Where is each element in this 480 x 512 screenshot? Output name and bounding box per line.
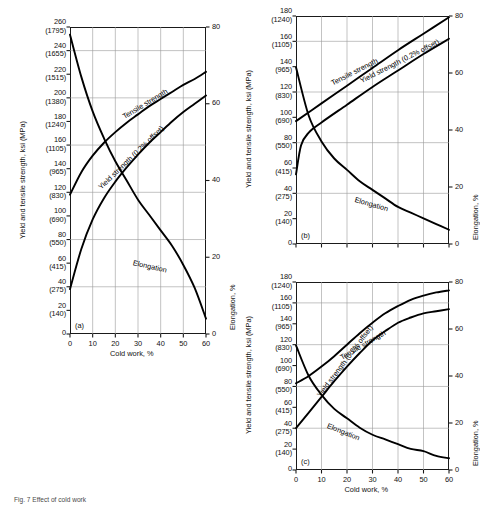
curve-label-elongation: Elongation: [132, 258, 168, 275]
tick-value-mpa: (1515): [45, 73, 66, 82]
tick-value-ksi: 100: [54, 206, 66, 215]
tick-value-mpa: (140): [49, 309, 66, 318]
tick-value-ksi: 40: [284, 184, 292, 193]
curve-label-elongation: Elongation: [326, 421, 361, 442]
x-axis-tick-label: 60: [194, 339, 218, 348]
tick-value-ksi: 60: [284, 158, 292, 167]
y-axis-tick-label-right: 40: [455, 372, 463, 380]
y-axis-tick-label-left: 20(140): [248, 441, 292, 458]
tick-value-ksi: 220: [54, 65, 66, 74]
y-axis-tick-label-left: 0: [248, 239, 292, 247]
tick-value-ksi: 80: [284, 377, 292, 386]
y-axis-tick-label-left: 180(1240): [22, 113, 66, 130]
curve-tensile: [296, 17, 449, 121]
y-axis-title-left: Yield and tensile strength, ksi (MPa): [18, 120, 27, 238]
tick-value-mpa: (1240): [271, 281, 292, 290]
tick-value-ksi: 20: [284, 440, 292, 449]
y-axis-title-right: Elongation, %: [228, 284, 237, 330]
curve-label-tensile: Tensile strength: [330, 56, 380, 87]
curve-yield: [296, 309, 449, 428]
x-axis-tick-label: 20: [335, 475, 359, 484]
y-axis-tick-label-right: 40: [212, 176, 220, 184]
y-axis-tick-label-left: 120(830): [248, 83, 292, 100]
y-axis-tick-label-left: 40(275): [248, 420, 292, 437]
y-axis-tick-label-left: 160(1105): [22, 136, 66, 153]
y-axis-tick-label-left: 0: [22, 329, 66, 337]
y-axis-tick-label-left: 0: [248, 465, 292, 473]
y-axis-tick-label-left: 60(415): [22, 255, 66, 272]
tick-value-ksi: 120: [280, 82, 292, 91]
plot-frame: [296, 282, 449, 470]
y-axis-tick-label-right: 60: [212, 99, 220, 107]
curve-tensile: [70, 72, 206, 195]
curve-elongation: [296, 345, 449, 458]
tick-value-ksi: 200: [54, 88, 66, 97]
y-axis-tick-label-left: 180(1240): [248, 7, 292, 24]
y-axis-tick-label-right: 40: [455, 126, 463, 134]
tick-value-mpa: (1240): [45, 120, 66, 129]
panel-label: (b): [301, 231, 310, 240]
tick-value-ksi: 140: [280, 57, 292, 66]
tick-value-ksi: 180: [280, 272, 292, 281]
panel-label: (c): [301, 457, 310, 466]
tick-value-ksi: 80: [58, 230, 66, 239]
y-axis-title-left: Yield and tensile strength, ksi (MPa): [244, 316, 253, 434]
tick-value-mpa: (275): [49, 285, 66, 294]
y-axis-tick-label-right: 80: [212, 23, 220, 31]
y-axis-tick-label-left: 120(830): [248, 336, 292, 353]
tick-value-ksi: 240: [54, 41, 66, 50]
tick-value-mpa: (830): [49, 191, 66, 200]
tick-value-mpa: (415): [275, 167, 292, 176]
x-axis-tick-label: 40: [386, 475, 410, 484]
x-axis-title: Cold work, %: [110, 349, 154, 358]
y-axis-tick-label-right: 80: [455, 278, 463, 286]
y-axis-tick-label-left: 100(690): [248, 109, 292, 126]
y-axis-tick-label-left: 140(965): [248, 315, 292, 332]
tick-value-ksi: 140: [54, 159, 66, 168]
tick-value-mpa: (690): [49, 215, 66, 224]
tick-value-mpa: (275): [275, 427, 292, 436]
curve-yield: [70, 95, 206, 289]
curve-elongation: [296, 67, 449, 229]
tick-value-mpa: (140): [275, 217, 292, 226]
curve-label-tensile: Tensile strength: [338, 328, 387, 361]
y-axis-tick-label-right: 0: [212, 330, 216, 338]
y-axis-tick-label-right: 20: [212, 253, 220, 261]
x-axis-tick-label: 0: [58, 339, 82, 348]
tick-value-ksi: 60: [58, 254, 66, 263]
tick-value-ksi: 80: [284, 133, 292, 142]
y-axis-tick-label-left: 100(690): [22, 207, 66, 224]
plot-frame: [296, 16, 449, 244]
y-axis-tick-label-left: 220(1515): [22, 66, 66, 83]
x-axis-tick-label: 40: [149, 339, 173, 348]
y-axis-tick-label-left: 60(415): [248, 159, 292, 176]
tick-value-mpa: (550): [275, 385, 292, 394]
tick-value-mpa: (415): [49, 262, 66, 271]
tick-value-mpa: (965): [49, 167, 66, 176]
y-axis-tick-label-left: 120(830): [22, 184, 66, 201]
tick-value-ksi: 260: [54, 17, 66, 26]
plot-frame: [70, 27, 206, 334]
y-axis-tick-label-right: 20: [455, 419, 463, 427]
y-axis-tick-label-left: 180(1240): [248, 273, 292, 290]
tick-value-mpa: (1105): [272, 302, 292, 311]
tick-value-mpa: (1795): [45, 26, 66, 35]
y-axis-tick-label-right: 80: [455, 12, 463, 20]
x-axis-tick-label: 30: [126, 339, 150, 348]
tick-value-mpa: (1380): [45, 97, 66, 106]
y-axis-tick-label-left: 140(965): [22, 160, 66, 177]
tick-value-ksi: 140: [280, 314, 292, 323]
panel-label: (a): [75, 321, 84, 330]
y-axis-tick-label-left: 100(690): [248, 357, 292, 374]
x-axis-tick-label: 10: [81, 339, 105, 348]
tick-value-mpa: (965): [275, 322, 292, 331]
x-axis-title: Cold work, %: [345, 485, 389, 494]
tick-value-mpa: (830): [275, 343, 292, 352]
figure-caption: Fig. 7 Effect of cold work: [14, 496, 86, 503]
